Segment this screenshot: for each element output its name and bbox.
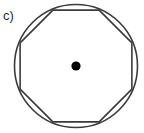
octagon-in-circle-diagram — [0, 0, 144, 133]
panel-label-c: c) — [3, 8, 14, 23]
figure-panel-c: c) — [0, 0, 144, 133]
center-point-dot-shape — [71, 61, 80, 70]
